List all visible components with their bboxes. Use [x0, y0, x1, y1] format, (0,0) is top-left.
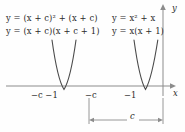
equation-left-factored: y = (x + c)(x + c + 1) [6, 26, 100, 36]
y-axis-label: y [172, 3, 177, 13]
equation-right-expanded: y = x² + x [112, 13, 155, 23]
tick-label-neg-c-minus-1: −c −1 [31, 90, 58, 100]
equation-left-expanded: y = (x + c)² + (x + c) [6, 13, 98, 23]
left-parabola-curve [52, 40, 76, 90]
tick-label-neg-c: −c [85, 90, 97, 100]
dimension-arrow-right [158, 118, 163, 122]
right-parabola-curve [134, 40, 158, 90]
tick-label-neg-1: −1 [124, 90, 136, 100]
y-axis-arrowhead [160, 4, 166, 10]
dimension-label-c: c [130, 111, 135, 121]
equation-right-factored: y = x(x + 1) [112, 26, 164, 36]
dimension-arrow-left [89, 118, 94, 122]
x-axis-label: x [173, 88, 178, 98]
parabola-translation-figure: y = (x + c)² + (x + c) y = (x + c)(x + c… [0, 0, 185, 132]
